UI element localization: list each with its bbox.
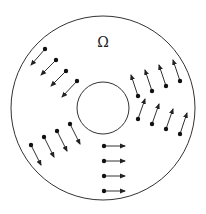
base-point-dot xyxy=(75,79,79,83)
base-point-dot xyxy=(136,94,140,98)
vector-arrow xyxy=(57,131,67,151)
base-point-dot xyxy=(64,69,68,73)
domain-label-omega: Ω xyxy=(97,34,109,50)
base-point-dot xyxy=(102,159,106,163)
base-point-dot xyxy=(164,84,168,88)
vector-arrow xyxy=(152,104,159,124)
inner-hole-circle xyxy=(77,82,129,134)
vector-arrow xyxy=(173,60,180,81)
vector-arrow xyxy=(44,137,54,157)
base-point-dot xyxy=(29,143,33,147)
base-point-dot xyxy=(164,127,168,131)
vector-arrow xyxy=(51,71,66,86)
arrow-group-right-upper xyxy=(131,60,182,98)
vector-arrow xyxy=(131,75,138,96)
base-point-dot xyxy=(150,122,154,126)
vector-arrow xyxy=(180,113,187,134)
vector-arrow xyxy=(138,99,145,119)
base-point-dot xyxy=(136,117,140,121)
base-point-dot xyxy=(178,132,182,136)
vector-field-arrows xyxy=(29,47,187,193)
diagram-svg xyxy=(0,0,206,214)
base-point-dot xyxy=(55,129,59,133)
arrow-group-lower-left xyxy=(29,122,80,165)
base-point-dot xyxy=(102,189,106,193)
vector-arrow xyxy=(145,70,152,91)
vector-arrow xyxy=(166,109,173,129)
arrow-group-bottom xyxy=(102,144,125,193)
base-point-dot xyxy=(102,144,106,148)
base-point-dot xyxy=(54,58,58,62)
vector-arrow xyxy=(31,145,41,165)
domain-diagram: Ω xyxy=(0,0,206,214)
vector-arrow xyxy=(41,60,56,75)
vector-arrow xyxy=(31,49,45,65)
vector-arrow xyxy=(70,124,80,144)
arrow-group-right-lower xyxy=(136,99,187,136)
base-point-dot xyxy=(178,79,182,83)
vector-arrow xyxy=(62,81,77,97)
base-point-dot xyxy=(42,135,46,139)
base-point-dot xyxy=(68,122,72,126)
base-point-dot xyxy=(150,89,154,93)
arrow-group-upper-left xyxy=(31,47,79,97)
base-point-dot xyxy=(102,174,106,178)
vector-arrow xyxy=(159,65,166,86)
base-point-dot xyxy=(43,47,47,51)
